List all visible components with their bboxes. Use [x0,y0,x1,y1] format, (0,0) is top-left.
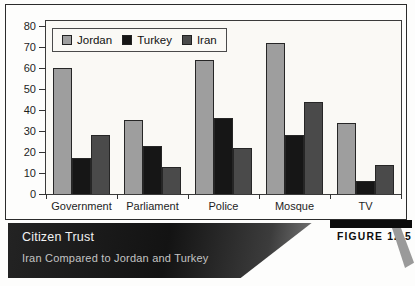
x-axis-tick-0 [46,194,47,199]
x-axis-label-parliament: Parliament [117,200,188,212]
y-axis-tick-80 [39,26,46,27]
y-axis-tick-50 [39,89,46,90]
x-axis-label-tv: TV [330,200,401,212]
figure-tab-bar [330,220,412,228]
y-axis-label-10: 10 [4,167,36,179]
caption-band: Citizen Trust Iran Compared to Jordan an… [8,223,338,278]
bar-iran-parliament [162,167,181,194]
bar-jordan-tv [337,123,356,194]
legend-item-iran: Iran [182,34,217,46]
legend-label-jordan: Jordan [77,34,112,46]
chart-legend: Jordan Turkey Iran [52,28,227,52]
x-axis-tick-5 [401,194,402,199]
bar-turkey-government [72,158,91,194]
x-axis-tick-4 [330,194,331,199]
bar-turkey-tv [356,181,375,194]
bar-iran-government [91,135,110,194]
x-axis-label-mosque: Mosque [259,200,330,212]
bar-jordan-police [195,60,214,194]
legend-label-iran: Iran [197,34,217,46]
bar-turkey-police [214,118,233,194]
bar-jordan-mosque [266,43,285,194]
y-axis-label-80: 80 [4,20,36,32]
x-axis-label-government: Government [46,200,117,212]
page: { "figure": { "title": "Citizen Trust", … [0,0,415,286]
bar-iran-tv [375,165,394,194]
bar-turkey-parliament [143,146,162,194]
bar-jordan-parliament [124,120,143,194]
legend-item-turkey: Turkey [122,34,172,46]
legend-swatch-iran [182,35,192,45]
y-axis-label-40: 40 [4,104,36,116]
y-axis-tick-10 [39,173,46,174]
bar-turkey-mosque [285,135,304,194]
bar-iran-mosque [304,102,323,194]
y-axis-tick-30 [39,131,46,132]
y-axis-tick-20 [39,152,46,153]
figure-title: Citizen Trust [22,230,94,244]
x-axis-label-police: Police [188,200,259,212]
y-axis-tick-40 [39,110,46,111]
legend-swatch-jordan [62,35,72,45]
x-axis-tick-3 [259,194,260,199]
y-axis-label-30: 30 [4,125,36,137]
y-axis-label-50: 50 [4,83,36,95]
y-axis-tick-70 [39,47,46,48]
bar-iran-police [233,148,252,194]
x-axis-tick-2 [188,194,189,199]
y-axis-label-60: 60 [4,62,36,74]
legend-swatch-turkey [122,35,132,45]
y-axis-label-0: 0 [4,188,36,200]
y-axis-label-20: 20 [4,146,36,158]
figure-subtitle: Iran Compared to Jordan and Turkey [22,252,209,264]
y-axis-tick-60 [39,68,46,69]
legend-label-turkey: Turkey [137,34,172,46]
y-axis-label-70: 70 [4,41,36,53]
bar-jordan-government [53,68,72,194]
legend-item-jordan: Jordan [62,34,112,46]
x-axis-tick-1 [117,194,118,199]
plot-area: Jordan Turkey Iran 01020304050607080Gove… [45,20,402,195]
